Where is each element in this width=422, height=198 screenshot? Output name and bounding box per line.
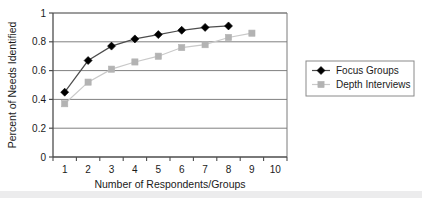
x-tick-label: 7 [202,164,208,175]
chart-legend: Focus GroupsDepth Interviews [306,61,414,96]
x-tick-label: 5 [156,164,162,175]
data-point-marker [85,79,91,85]
y-tick-label: 0.8 [32,36,46,47]
data-point-marker [225,34,231,40]
x-tick-label: 8 [226,164,232,175]
data-point-marker [179,44,185,50]
data-point-marker [62,101,68,107]
chart-figure: 00.20.40.60.81 12345678910 Percent of Ne… [0,0,422,198]
data-point-marker [155,53,161,59]
y-tick-label: 0.2 [32,123,46,134]
y-tick-label: 0 [40,152,46,163]
y-tick-label: 1 [40,8,46,19]
legend-label: Focus Groups [336,65,399,76]
bottom-band [0,191,422,198]
x-tick-label: 9 [249,164,255,175]
line-chart: 00.20.40.60.81 12345678910 Percent of Ne… [0,0,422,198]
y-axis-title: Percent of Needs Identified [6,22,18,149]
data-point-marker [249,30,255,36]
x-tick-label: 10 [270,164,282,175]
x-axis-title: Number of Respondents/Groups [94,178,245,190]
x-tick-label: 1 [62,164,68,175]
x-tick-label: 2 [85,164,91,175]
legend-marker-square [318,81,324,87]
y-tick-label: 0.6 [32,65,46,76]
y-tick-label: 0.4 [32,94,46,105]
x-tick-label: 4 [132,164,138,175]
legend-label: Depth Interviews [336,79,410,90]
data-point-marker [132,59,138,65]
y-axis-ticks: 00.20.40.60.81 [32,8,53,163]
data-point-marker [202,42,208,48]
x-axis-ticks: 12345678910 [53,157,287,175]
x-tick-label: 3 [109,164,115,175]
x-tick-label: 6 [179,164,185,175]
data-point-marker [108,66,114,72]
